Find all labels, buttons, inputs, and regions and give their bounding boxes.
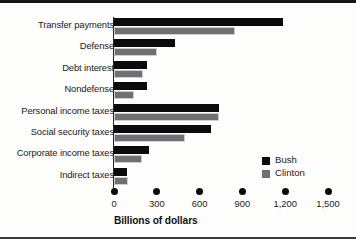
x-axis-title: Billions of dollars [114,215,198,226]
bar-bush [114,125,211,133]
bar-bush [114,82,147,90]
plot-area: Transfer paymentsDefenseDebt interestNon… [0,3,356,239]
bar-bush [114,18,283,26]
category-label: Corporate income taxes [0,147,114,158]
bar-clinton [114,27,235,35]
x-axis-tick-label: 300 [134,198,180,209]
x-axis-tick-label: 0 [91,198,137,209]
bar-bush [114,168,127,176]
legend-label: Bush [275,154,297,165]
x-axis-tick-marker [325,188,332,195]
category-label: Debt interest [0,62,114,73]
category-label: Transfer payments [0,19,114,30]
x-axis-tick-label: 1,200 [262,198,308,209]
x-axis-tick-marker [196,188,203,195]
bar-row: Corporate income taxes [0,145,356,165]
bar-clinton [114,91,134,99]
bar-row: Defense [0,38,356,58]
bar-bush [114,104,219,112]
bar-clinton [114,155,142,163]
category-label: Indirect taxes [0,169,114,180]
x-axis-tick-marker [111,188,118,195]
bar-row: Transfer payments [0,17,356,37]
x-axis-tick-marker [282,188,289,195]
bar-clinton [114,48,157,56]
bar-row: Personal income taxes [0,103,356,123]
x-axis-tick-marker [239,188,246,195]
x-axis: 03006009001,2001,500 [0,188,356,214]
clinton-swatch-icon [262,170,270,178]
bar-clinton [114,113,219,121]
chart-figure: Transfer paymentsDefenseDebt interestNon… [0,0,356,239]
bar-clinton [114,177,128,185]
bar-row: Social security taxes [0,124,356,144]
bush-swatch-icon [262,157,270,165]
x-axis-tick-marker [153,188,160,195]
bar-clinton [114,70,143,78]
category-label: Personal income taxes [0,105,114,116]
x-axis-tick-label: 900 [219,198,265,209]
bar-bush [114,146,149,154]
x-axis-tick-label: 600 [177,198,223,209]
category-label: Nondefense [0,83,114,94]
legend-label: Clinton [275,167,305,178]
bar-bush [114,39,175,47]
bar-row: Debt interest [0,60,356,80]
category-label: Social security taxes [0,126,114,137]
bar-clinton [114,134,185,142]
bar-bush [114,61,147,69]
bar-row: Nondefense [0,81,356,101]
category-label: Defense [0,40,114,51]
x-axis-tick-label: 1,500 [305,198,351,209]
